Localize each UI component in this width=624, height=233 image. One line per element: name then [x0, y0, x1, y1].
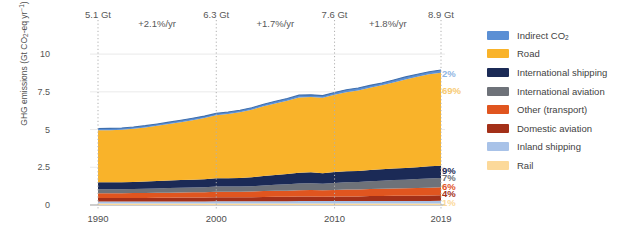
legend-item-label: Rail [517, 160, 533, 171]
chart-legend: Indirect CO2RoadInternational shippingIn… [487, 26, 622, 175]
x-tick-label: 2019 [430, 213, 451, 224]
series-share-label: 1% [442, 196, 456, 207]
y-tick-label: 10 [24, 49, 50, 59]
legend-item-label: Domestic aviation [517, 123, 592, 134]
legend-item-label: Indirect CO2 [517, 30, 569, 41]
series-share-label: 69% [442, 85, 461, 96]
y-axis-ticks: 02.557.510 [18, 0, 50, 233]
legend-swatch [487, 31, 509, 40]
x-tick-label: 2010 [324, 213, 345, 224]
total-gt-label: 7.6 Gt [322, 9, 348, 20]
x-tick-label: 1990 [87, 213, 108, 224]
legend-item-label: Inland shipping [517, 141, 581, 152]
legend-item[interactable]: Other (transport) [487, 100, 622, 119]
growth-rate-label: +1.7%/yr [257, 18, 295, 29]
y-tick-label: 7.5 [24, 87, 50, 97]
growth-rate-label: +2.1%/yr [138, 18, 176, 29]
legend-swatch [487, 87, 509, 96]
total-gt-label: 8.9 Gt [428, 9, 454, 20]
legend-item[interactable]: Rail [487, 156, 622, 175]
total-gt-label: 5.1 Gt [85, 9, 111, 20]
legend-item[interactable]: International shipping [487, 63, 622, 82]
growth-rate-label: +1.8%/yr [369, 18, 407, 29]
y-tick-label: 5 [24, 125, 50, 135]
legend-swatch [487, 142, 509, 151]
legend-item[interactable]: International aviation [487, 82, 622, 101]
y-tick-label: 2.5 [24, 162, 50, 172]
total-gt-label: 6.3 Gt [203, 9, 229, 20]
legend-item[interactable]: Domestic aviation [487, 119, 622, 138]
legend-item[interactable]: Inland shipping [487, 138, 622, 157]
chart-container: GHG emissions (Gt CO2-eq yr−1) 02.557.51… [0, 0, 624, 233]
area-series [98, 73, 441, 183]
area-series [98, 203, 441, 205]
legend-item-label: International shipping [517, 67, 607, 78]
legend-item[interactable]: Road [487, 45, 622, 64]
legend-item[interactable]: Indirect CO2 [487, 26, 622, 45]
legend-item-label: International aviation [517, 86, 605, 97]
legend-swatch [487, 161, 509, 170]
legend-swatch [487, 68, 509, 77]
legend-item-label: Road [517, 48, 540, 59]
legend-swatch [487, 105, 509, 114]
y-tick-label: 0 [24, 200, 50, 210]
x-tick-label: 2000 [206, 213, 227, 224]
legend-swatch [487, 49, 509, 58]
legend-item-label: Other (transport) [517, 104, 587, 115]
series-share-label: 2% [442, 68, 456, 79]
legend-swatch [487, 124, 509, 133]
